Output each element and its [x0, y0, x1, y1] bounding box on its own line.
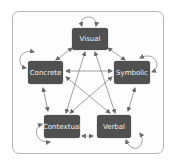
node-visual-label: Visual [80, 35, 101, 43]
node-verbal-label: Verbal [103, 123, 125, 131]
node-concrete: Concrete [28, 61, 63, 84]
node-concrete-label: Concrete [30, 69, 62, 77]
arrow-symbolic-contextual [70, 77, 112, 113]
node-verbal: Verbal [97, 115, 131, 138]
node-contextual-label: Contextual [43, 123, 81, 131]
arrow-visual-concrete [56, 48, 72, 60]
arrow-symbolic-verbal [128, 88, 135, 111]
arrow-concrete-contextual [43, 88, 48, 111]
arrow-visual-symbolic [108, 48, 125, 60]
arrow-visual-verbal [95, 52, 115, 113]
arrow-concrete-verbal [66, 77, 110, 113]
loop-visual [81, 17, 96, 26]
arrow-visual-contextual [66, 52, 85, 113]
node-visual: Visual [72, 28, 108, 50]
node-contextual: Contextual [44, 115, 80, 138]
node-symbolic: Symbolic [114, 61, 150, 84]
node-symbolic-label: Symbolic [116, 69, 148, 77]
